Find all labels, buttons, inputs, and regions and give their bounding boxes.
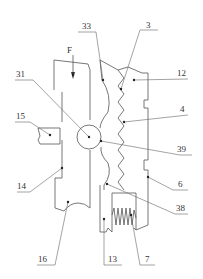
label-6: 6 <box>178 179 183 189</box>
label-13: 13 <box>108 254 118 264</box>
label-15: 15 <box>16 111 26 121</box>
label-4: 4 <box>180 104 185 114</box>
technical-drawing: F <box>0 0 203 279</box>
leader-lines <box>15 30 192 265</box>
label-14: 14 <box>17 181 27 191</box>
part-15 <box>38 128 60 144</box>
label-39: 39 <box>177 144 187 154</box>
label-31: 31 <box>16 69 25 79</box>
cam-member-33 <box>100 60 109 185</box>
force-label: F <box>67 45 72 55</box>
label-7: 7 <box>145 254 150 264</box>
label-16: 16 <box>38 254 48 264</box>
label-33: 33 <box>82 21 92 31</box>
left-body-part <box>54 60 90 211</box>
label-12: 12 <box>177 68 186 78</box>
label-3: 3 <box>146 20 151 30</box>
label-38: 38 <box>176 203 186 213</box>
